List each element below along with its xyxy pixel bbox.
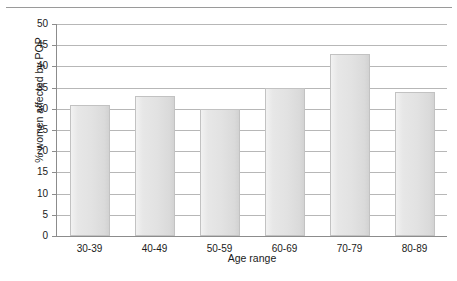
gridline xyxy=(57,194,447,195)
y-axis-tick-label: 45 xyxy=(21,40,48,50)
gridline xyxy=(57,130,447,131)
top-divider-rule xyxy=(6,7,452,8)
gridline xyxy=(57,109,447,110)
y-axis-tick-label: 20 xyxy=(21,146,48,156)
y-axis-tick-label: 30 xyxy=(21,104,48,114)
y-axis-tick-label: 25 xyxy=(21,125,48,135)
bar xyxy=(200,109,240,236)
gridline xyxy=(57,215,447,216)
y-axis-tick-label: 5 xyxy=(21,210,48,220)
y-axis-title-container: % women affected by POP xyxy=(23,0,37,240)
bar xyxy=(395,92,435,236)
y-axis-line xyxy=(56,24,57,237)
x-axis-line xyxy=(56,236,447,237)
y-axis-tick-label: 0 xyxy=(21,231,48,241)
bar xyxy=(330,54,370,236)
gridline xyxy=(57,172,447,173)
x-axis-title: Age range xyxy=(57,252,447,264)
bar-chart-figure: % women affected by POP 0510152025303540… xyxy=(0,0,457,281)
bar xyxy=(135,96,175,236)
gridline xyxy=(57,151,447,152)
y-axis-tick-label: 10 xyxy=(21,189,48,199)
y-axis-tick-label: 40 xyxy=(21,61,48,71)
y-axis-tick-label: 35 xyxy=(21,83,48,93)
gridline xyxy=(57,88,447,89)
bar xyxy=(70,105,110,236)
gridline xyxy=(57,45,447,46)
y-axis-tick-label: 50 xyxy=(21,19,48,29)
plot-area: 05101520253035404550 30-3940-4950-5960-6… xyxy=(57,24,447,236)
gridline xyxy=(57,24,447,25)
gridline xyxy=(57,66,447,67)
bar xyxy=(265,88,305,236)
y-axis-tick-label: 15 xyxy=(21,167,48,177)
